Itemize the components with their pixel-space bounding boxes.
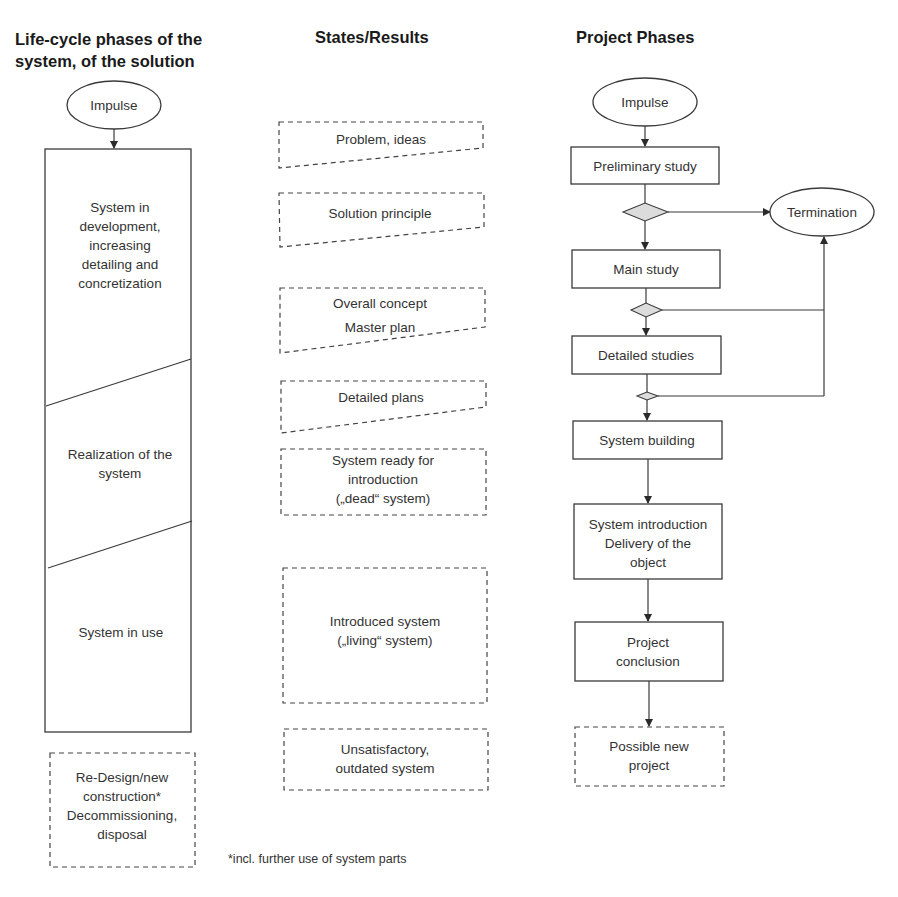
svg-text:Unsatisfactory,: Unsatisfactory, [341, 742, 429, 757]
lifecycle-column: Impulse System in development, increasin… [45, 81, 195, 867]
possible-new-project-box [575, 727, 724, 786]
states-column: Problem, ideas Solution principle Overal… [228, 122, 488, 866]
svg-text:introduction: introduction [348, 472, 418, 487]
lifecycle-phase-development: System in development, increasing detail… [78, 200, 161, 291]
svg-text:conclusion: conclusion [616, 654, 680, 669]
project-impulse-label: Impulse [621, 95, 668, 110]
state-outdated-system: Unsatisfactory, outdated system [335, 742, 434, 776]
lifecycle-header-line2: system, of the solution [15, 52, 195, 70]
svg-text:development,: development, [79, 219, 160, 234]
lifecycle-diagram: Life-cycle phases of the system, of the … [0, 0, 898, 897]
lifecycle-impulse-label: Impulse [90, 98, 137, 113]
svg-text:System introduction: System introduction [589, 517, 708, 532]
state-introduced-system: Introduced system („living“ system) [330, 614, 440, 648]
svg-text:Delivery of the: Delivery of the [605, 536, 691, 551]
decision-diamond-icon [631, 303, 662, 317]
lifecycle-header-line1: Life-cycle phases of the [15, 30, 202, 48]
svg-text:Possible new: Possible new [609, 739, 689, 754]
state-detailed-plans: Detailed plans [338, 390, 424, 405]
svg-text:outdated system: outdated system [335, 761, 434, 776]
project-column: Impulse Preliminary study Termination Ma… [571, 78, 874, 786]
state-ready-for-introduction: System ready for introduction („dead“ sy… [332, 453, 435, 506]
svg-text:Project: Project [627, 635, 669, 650]
state-solution-principle: Solution principle [329, 206, 432, 221]
svg-text:Realization of the: Realization of the [68, 447, 172, 462]
svg-text:System in: System in [90, 200, 149, 215]
svg-text:(„living“ system): („living“ system) [337, 633, 432, 648]
possible-new-project-label: Possible new project [609, 739, 689, 773]
decision-diamond-icon [637, 392, 658, 400]
svg-text:Re-Design/new: Re-Design/new [76, 770, 169, 785]
svg-text:Detailed studies: Detailed studies [598, 348, 694, 363]
svg-text:Master plan: Master plan [345, 320, 416, 335]
svg-text:object: object [630, 555, 666, 570]
decision-diamond-icon [623, 203, 668, 221]
lifecycle-phase-box [45, 149, 191, 732]
svg-text:Preliminary study: Preliminary study [593, 159, 697, 174]
svg-text:Introduced system: Introduced system [330, 614, 440, 629]
svg-text:system: system [99, 466, 142, 481]
project-header: Project Phases [576, 28, 694, 46]
step-project-conclusion [575, 622, 723, 681]
svg-text:System in use: System in use [79, 625, 164, 640]
svg-text:Decommissioning,: Decommissioning, [67, 808, 177, 823]
svg-text:project: project [629, 758, 670, 773]
svg-text:increasing: increasing [89, 238, 151, 253]
termination-label: Termination [787, 205, 857, 220]
state-overall-concept: Overall concept Master plan [333, 296, 427, 335]
state-box [284, 729, 488, 790]
svg-text:concretization: concretization [78, 276, 161, 291]
svg-text:detailing and: detailing and [82, 257, 159, 272]
state-problem-ideas: Problem, ideas [336, 132, 426, 147]
svg-text:(„dead“ system): („dead“ system) [336, 491, 431, 506]
footnote: *incl. further use of system parts [228, 852, 407, 866]
svg-text:System building: System building [599, 433, 694, 448]
state-document-shape [281, 381, 486, 433]
lifecycle-phase-in-use: System in use [79, 625, 164, 640]
svg-text:System ready for: System ready for [332, 453, 435, 468]
svg-text:Main study: Main study [613, 262, 679, 277]
states-header: States/Results [315, 28, 429, 46]
svg-text:construction*: construction* [83, 789, 162, 804]
svg-text:disposal: disposal [97, 827, 147, 842]
svg-text:Overall concept: Overall concept [333, 296, 427, 311]
lifecycle-redesign-label: Re-Design/new construction* Decommission… [67, 770, 177, 842]
